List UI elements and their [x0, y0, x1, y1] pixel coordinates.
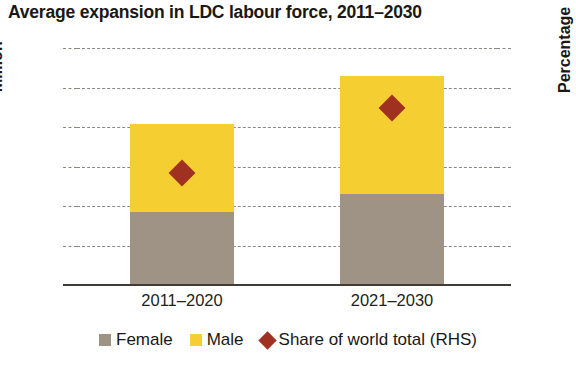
chart-legend: FemaleMaleShare of world total (RHS): [0, 330, 576, 350]
x-axis-tick-label: 2011–2020: [141, 291, 222, 310]
chart-figure: Average expansion in LDC labour force, 2…: [0, 0, 576, 370]
axis-tick-mark: [497, 206, 511, 207]
bar-segment-female[interactable]: [340, 194, 444, 285]
axis-tick-mark: [63, 127, 77, 128]
axis-tick-mark: [63, 88, 77, 89]
axis-tick-mark: [497, 127, 511, 128]
plot-area: 0358101315 0102030405060: [77, 48, 497, 285]
right-axis-title: Percentage: [556, 7, 574, 93]
legend-label: Female: [116, 330, 173, 350]
legend-item[interactable]: Male: [190, 330, 244, 350]
axis-tick-mark: [497, 48, 511, 49]
axis-tick-mark: [63, 206, 77, 207]
axis-tick-mark: [63, 48, 77, 49]
legend-item[interactable]: Female: [99, 330, 173, 350]
axis-tick-mark: [63, 246, 77, 247]
bar-segment-male[interactable]: [340, 76, 444, 195]
legend-label: Share of world total (RHS): [279, 330, 477, 350]
axis-tick-mark: [497, 246, 511, 247]
legend-item[interactable]: Share of world total (RHS): [261, 330, 477, 350]
legend-square-icon: [99, 334, 111, 346]
bar-segment-female[interactable]: [130, 212, 234, 285]
axis-tick-mark: [63, 167, 77, 168]
x-axis-tick-label: 2021–2030: [351, 291, 434, 310]
axis-tick-mark: [497, 88, 511, 89]
chart-title: Average expansion in LDC labour force, 2…: [8, 2, 568, 23]
x-axis-line: [63, 284, 511, 286]
bar-stack[interactable]: [340, 48, 444, 285]
left-axis-title: Million: [0, 41, 6, 92]
legend-square-icon: [190, 334, 202, 346]
axis-tick-mark: [497, 167, 511, 168]
legend-label: Male: [207, 330, 244, 350]
legend-diamond-icon: [258, 331, 276, 349]
